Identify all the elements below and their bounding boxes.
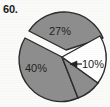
pie-label-10: 10% [82, 58, 104, 70]
pie-chart-figure: 60. 27% 40% 10% [0, 0, 110, 107]
pie-label-40: 40% [25, 62, 47, 74]
pie-label-27: 27% [49, 25, 71, 37]
pie-chart-graphic: 27% 40% 10% [0, 0, 110, 107]
